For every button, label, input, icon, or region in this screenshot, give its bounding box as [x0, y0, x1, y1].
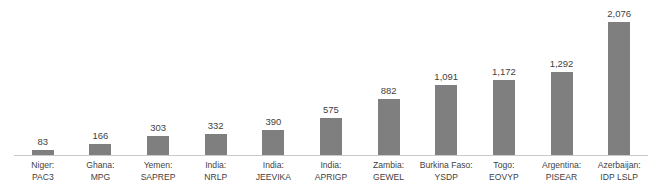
category-label-line2: YSDP: [417, 171, 475, 183]
bar-value-label: 1,091: [417, 71, 475, 82]
bar-value-label: 390: [245, 116, 303, 127]
category-label-line2: PAC3: [14, 171, 72, 183]
category-label: Niger:PAC3: [14, 159, 72, 183]
bar[interactable]: [435, 85, 457, 155]
bar-value-label: 83: [14, 136, 72, 147]
category-label-line1: Burkina Faso:: [417, 159, 475, 171]
category-label-line1: Yemen:: [129, 159, 187, 171]
bar-group: 882: [360, 0, 418, 155]
category-label-line1: Niger:: [14, 159, 72, 171]
bar-value-label: 575: [302, 104, 360, 115]
category-label-line1: India:: [245, 159, 303, 171]
category-label-line2: SAPREP: [129, 171, 187, 183]
bar[interactable]: [378, 99, 400, 156]
bar-group: 1,292: [533, 0, 591, 155]
category-label: Azerbaijan:IDP LSLP: [590, 159, 648, 183]
category-label-line2: NRLP: [187, 171, 245, 183]
bar-value-label: 332: [187, 120, 245, 131]
category-label-line2: IDP LSLP: [590, 171, 648, 183]
category-label-line1: Argentina:: [533, 159, 591, 171]
bar[interactable]: [89, 144, 111, 155]
bar-value-label: 1,292: [533, 58, 591, 69]
category-label-line2: APRIGP: [302, 171, 360, 183]
category-label-line2: GEWEL: [360, 171, 418, 183]
category-label: Yemen:SAPREP: [129, 159, 187, 183]
bar[interactable]: [262, 130, 284, 155]
category-label-line1: Azerbaijan:: [590, 159, 648, 171]
bar-group: 303: [129, 0, 187, 155]
bar-group: 2,076: [590, 0, 648, 155]
plot-area: 831663033323905758821,0911,1721,2922,076: [14, 0, 648, 155]
bar-group: 390: [245, 0, 303, 155]
category-label-line2: PISEAR: [533, 171, 591, 183]
bar-group: 1,172: [475, 0, 533, 155]
category-label-line1: Ghana:: [72, 159, 130, 171]
category-label-line2: EOVYP: [475, 171, 533, 183]
category-label: India:APRIGP: [302, 159, 360, 183]
bar-group: 1,091: [417, 0, 475, 155]
category-label-line1: India:: [187, 159, 245, 171]
bar[interactable]: [147, 136, 169, 155]
category-label: Togo:EOVYP: [475, 159, 533, 183]
category-label: Burkina Faso:YSDP: [417, 159, 475, 183]
category-label: India:JEEVIKA: [245, 159, 303, 183]
bar-group: 332: [187, 0, 245, 155]
category-label-line1: India:: [302, 159, 360, 171]
category-label: Argentina:PISEAR: [533, 159, 591, 183]
category-label-line2: MPG: [72, 171, 130, 183]
bar-chart: 831663033323905758821,0911,1721,2922,076…: [0, 0, 659, 190]
category-label-line2: JEEVIKA: [245, 171, 303, 183]
bar-group: 83: [14, 0, 72, 155]
category-label-line1: Togo:: [475, 159, 533, 171]
bar[interactable]: [493, 80, 515, 155]
bar[interactable]: [608, 22, 630, 155]
bar[interactable]: [551, 72, 573, 155]
category-label: Zambia:GEWEL: [360, 159, 418, 183]
bar[interactable]: [320, 118, 342, 155]
bar-value-label: 1,172: [475, 66, 533, 77]
bar-value-label: 2,076: [590, 8, 648, 19]
bar-value-label: 303: [129, 122, 187, 133]
x-axis-line: [14, 155, 648, 156]
bar[interactable]: [205, 134, 227, 155]
bar-group: 575: [302, 0, 360, 155]
bar-value-label: 882: [360, 85, 418, 96]
category-label-line1: Zambia:: [360, 159, 418, 171]
bar-group: 166: [72, 0, 130, 155]
x-axis-tick-labels: Niger:PAC3Ghana:MPGYemen:SAPREPIndia:NRL…: [14, 159, 648, 190]
bar-value-label: 166: [72, 130, 130, 141]
category-label: India:NRLP: [187, 159, 245, 183]
category-label: Ghana:MPG: [72, 159, 130, 183]
